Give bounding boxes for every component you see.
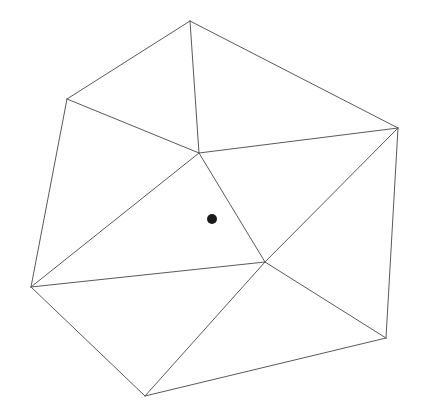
- marked-point-dot: [207, 214, 217, 224]
- figure-canvas: [0, 0, 433, 415]
- triangulated-polygon-svg: [0, 0, 433, 415]
- marked-points-group: [207, 214, 217, 224]
